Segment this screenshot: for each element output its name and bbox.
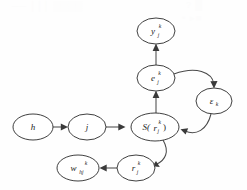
node-r-label: r [132, 163, 136, 173]
edge-r-to-w [100, 165, 118, 172]
node-e-label: e [151, 73, 155, 83]
node-epsilon[interactable]: ε k [196, 88, 232, 114]
node-epsilon-ellipse [196, 88, 232, 114]
node-e[interactable]: e j k [137, 65, 175, 91]
edge-h-to-j [53, 124, 68, 131]
graph-canvas: y j k e j k ε k S( r j k ) j [0, 0, 247, 190]
node-j[interactable]: j [68, 114, 106, 140]
node-w-subscript: hj [79, 169, 84, 175]
node-epsilon-label: ε [210, 96, 214, 106]
node-r[interactable]: r j k [117, 155, 155, 181]
edge-e-to-eps [174, 70, 218, 88]
node-w-ellipse [57, 155, 99, 181]
figure-container: ── │││ ▒▒▒▒ ? █ • ▸■ [0, 0, 247, 190]
node-s-of-r-closing-paren: ) [163, 122, 166, 132]
node-w-label: w [70, 163, 76, 173]
node-h[interactable]: h [13, 114, 53, 140]
edge-s-to-e [153, 91, 160, 114]
edge-eps-to-s [181, 114, 212, 135]
node-h-label: h [31, 122, 36, 132]
node-r-subscript: j [136, 169, 139, 175]
edge-e-to-y [153, 44, 160, 66]
node-j-label: j [85, 122, 89, 132]
node-y[interactable]: y j k [137, 18, 175, 44]
node-s-of-r[interactable]: S( r j k ) [131, 113, 179, 141]
edge-s-to-r [153, 140, 167, 167]
node-y-subscript: j [157, 32, 160, 38]
node-e-ellipse [137, 65, 175, 91]
node-s-of-r-inner-subscript: j [157, 128, 160, 134]
node-e-subscript: j [156, 79, 159, 85]
node-y-label: y [150, 26, 155, 36]
node-y-ellipse [137, 18, 175, 44]
node-w[interactable]: w hj k [57, 155, 99, 181]
node-s-of-r-label: S( [143, 122, 152, 132]
edge-j-to-s [106, 124, 126, 131]
